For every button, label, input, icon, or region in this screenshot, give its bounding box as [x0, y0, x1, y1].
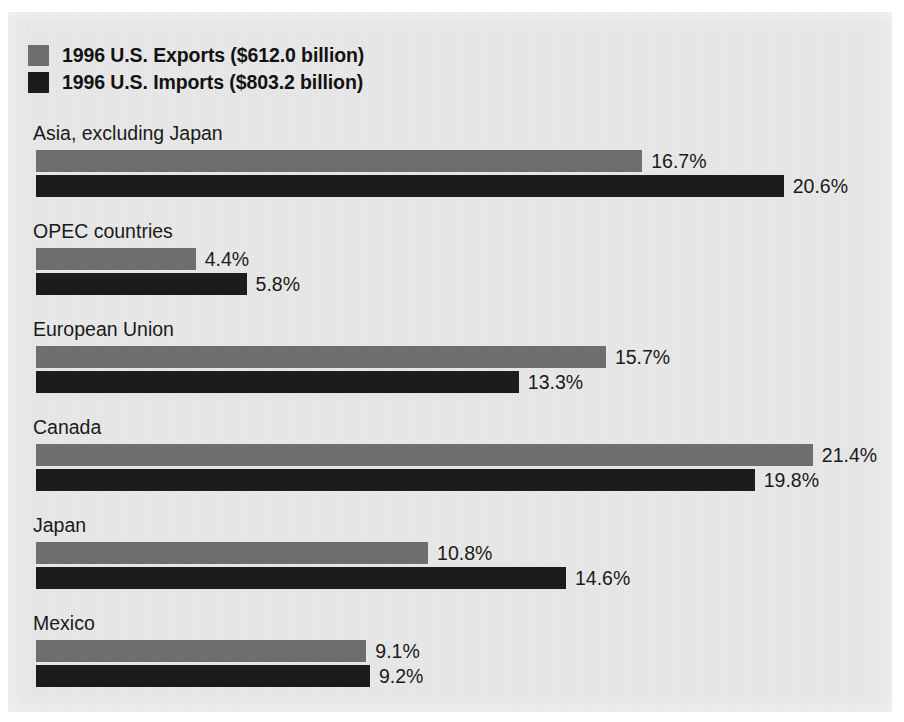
chart-figure: 1996 U.S. Exports ($612.0 billion) 1996 … [8, 12, 892, 712]
legend-label-imports: 1996 U.S. Imports ($803.2 billion) [62, 71, 363, 94]
bar-value-imports: 9.2% [379, 665, 423, 688]
bar-exports [36, 248, 196, 270]
legend-item-exports: 1996 U.S. Exports ($612.0 billion) [28, 42, 364, 69]
bar-group: OPEC countries 4.4% 5.8% [8, 220, 892, 318]
bar-track-imports: 14.6% [36, 567, 630, 589]
category-label: Mexico [33, 612, 95, 635]
bar-imports [36, 371, 519, 393]
bar-value-imports: 5.8% [256, 273, 300, 296]
chart-legend: 1996 U.S. Exports ($612.0 billion) 1996 … [28, 42, 364, 96]
bar-track-exports: 4.4% [36, 248, 249, 270]
bar-value-imports: 20.6% [793, 175, 848, 198]
bar-track-exports: 15.7% [36, 346, 670, 368]
bar-value-imports: 13.3% [528, 371, 583, 394]
legend-item-imports: 1996 U.S. Imports ($803.2 billion) [28, 69, 364, 96]
bar-exports [36, 150, 642, 172]
bar-value-imports: 19.8% [764, 469, 819, 492]
bar-track-exports: 16.7% [36, 150, 707, 172]
bar-groups: Asia, excluding Japan 16.7% 20.6% OPEC c… [8, 122, 892, 710]
bar-value-exports: 21.4% [822, 444, 877, 467]
imports-swatch [28, 72, 49, 93]
bar-track-imports: 13.3% [36, 371, 583, 393]
bar-track-imports: 5.8% [36, 273, 300, 295]
exports-swatch [28, 45, 49, 66]
bar-value-exports: 16.7% [651, 150, 706, 173]
bar-imports [36, 175, 784, 197]
bar-track-exports: 21.4% [36, 444, 877, 466]
bar-group: Canada 21.4% 19.8% [8, 416, 892, 514]
bar-group: Japan 10.8% 14.6% [8, 514, 892, 612]
bar-track-imports: 9.2% [36, 665, 423, 687]
bar-track-imports: 20.6% [36, 175, 848, 197]
legend-label-exports: 1996 U.S. Exports ($612.0 billion) [62, 44, 364, 67]
category-label: Asia, excluding Japan [33, 122, 223, 145]
bar-imports [36, 665, 370, 687]
bar-exports [36, 640, 366, 662]
bar-imports [36, 567, 566, 589]
bar-value-exports: 15.7% [615, 346, 670, 369]
bar-group: Mexico 9.1% 9.2% [8, 612, 892, 710]
bar-imports [36, 469, 755, 491]
category-label: European Union [33, 318, 174, 341]
bar-value-exports: 10.8% [437, 542, 492, 565]
bar-value-imports: 14.6% [575, 567, 630, 590]
bar-track-exports: 9.1% [36, 640, 420, 662]
bar-imports [36, 273, 247, 295]
category-label: Canada [33, 416, 101, 439]
bar-value-exports: 9.1% [375, 640, 419, 663]
category-label: OPEC countries [33, 220, 173, 243]
category-label: Japan [33, 514, 86, 537]
bar-exports [36, 542, 428, 564]
bar-value-exports: 4.4% [205, 248, 249, 271]
bar-track-exports: 10.8% [36, 542, 492, 564]
bar-exports [36, 444, 813, 466]
bar-group: European Union 15.7% 13.3% [8, 318, 892, 416]
bar-track-imports: 19.8% [36, 469, 819, 491]
bar-exports [36, 346, 606, 368]
bar-group: Asia, excluding Japan 16.7% 20.6% [8, 122, 892, 220]
